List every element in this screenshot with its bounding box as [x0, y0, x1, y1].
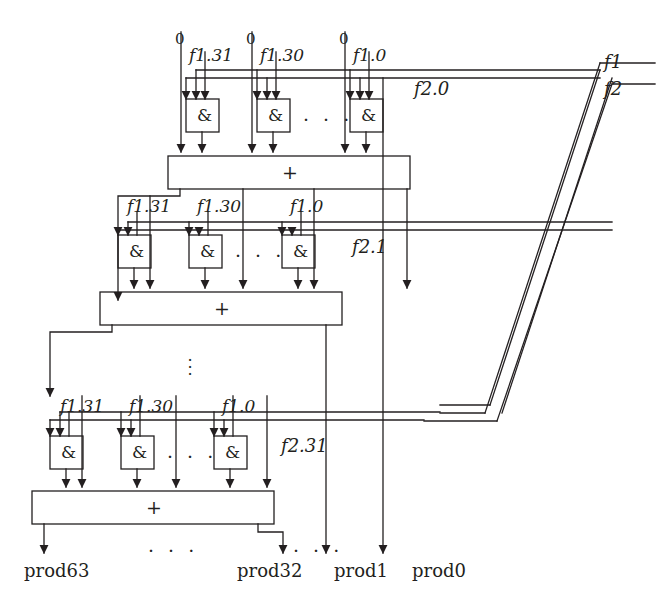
- row0-and-gates: [186, 99, 383, 152]
- row0-gate-ellipsis: · · ·: [303, 110, 353, 129]
- row0-select-rail: [186, 70, 600, 99]
- output-ellipsis-right: · · ·: [293, 541, 343, 560]
- row0-and-gate-label-0: &: [197, 107, 212, 124]
- rowN-and-gates: [50, 436, 247, 487]
- row1-and-gate-label-1: &: [200, 243, 215, 260]
- rowN-and-gate-label-2: &: [225, 444, 240, 461]
- output-label-prod1: prod1: [334, 562, 388, 580]
- row0-adder-label: +: [282, 163, 298, 182]
- rowN-adder-label: +: [146, 498, 162, 517]
- rowN-operand-label-0: f1.31: [60, 398, 104, 415]
- f2-bus-inner: [502, 78, 612, 413]
- row1-adder-label: +: [214, 299, 230, 318]
- row0-and-gate-label-1: &: [268, 107, 283, 124]
- row1-select-label: f2.1: [352, 238, 387, 256]
- row0-operand-label-2: f1.0: [353, 47, 386, 64]
- row1-and-gates: [118, 235, 315, 288]
- row1-and-gate-label-0: &: [129, 243, 144, 260]
- row0-operand-label-0: f1.31: [189, 47, 233, 64]
- row0-zero-label-2: 0: [339, 32, 349, 47]
- rowN-and-gate-label-1: &: [132, 444, 147, 461]
- rowN-select-label: f2.31: [281, 437, 328, 455]
- row0-zero-label-0: 0: [175, 32, 185, 47]
- row0-zero-label-1: 0: [246, 32, 256, 47]
- row1-operand-label-2: f1.0: [290, 198, 323, 215]
- row0-select-label: f2.0: [414, 80, 449, 98]
- rows-vertical-ellipsis: ...: [184, 352, 196, 373]
- row1-select-rail: [118, 222, 612, 235]
- circuit-diagram-svg: [0, 0, 656, 602]
- row1-operand-label-1: f1.30: [197, 198, 241, 215]
- f1-bus: [440, 63, 655, 413]
- row1-and-gate-label-2: &: [293, 243, 308, 260]
- row0-operand-label-1: f1.30: [260, 47, 304, 64]
- row1-operand-label-0: f1.31: [127, 198, 171, 215]
- output-ellipsis-left: · · ·: [148, 541, 198, 560]
- f1-bus-label: f1: [604, 53, 622, 71]
- output-label-prod63: prod63: [24, 562, 89, 580]
- row1-gate-ellipsis: · · ·: [235, 246, 285, 265]
- rowN-and-gate-label-0: &: [61, 444, 76, 461]
- figure-canvas: 0 0 0 f1.31 f1.30 f1.0 & & & · · · + f2.…: [0, 0, 656, 602]
- rowN-gate-ellipsis: · · ·: [167, 447, 217, 466]
- row0-and-gate-label-2: &: [361, 107, 376, 124]
- f2-bus-label: f2: [604, 80, 622, 98]
- output-label-prod32: prod32: [237, 562, 302, 580]
- rowN-operand-label-1: f1.30: [129, 398, 173, 415]
- rowN-operand-label-2: f1.0: [222, 398, 255, 415]
- output-label-prod0: prod0: [412, 562, 466, 580]
